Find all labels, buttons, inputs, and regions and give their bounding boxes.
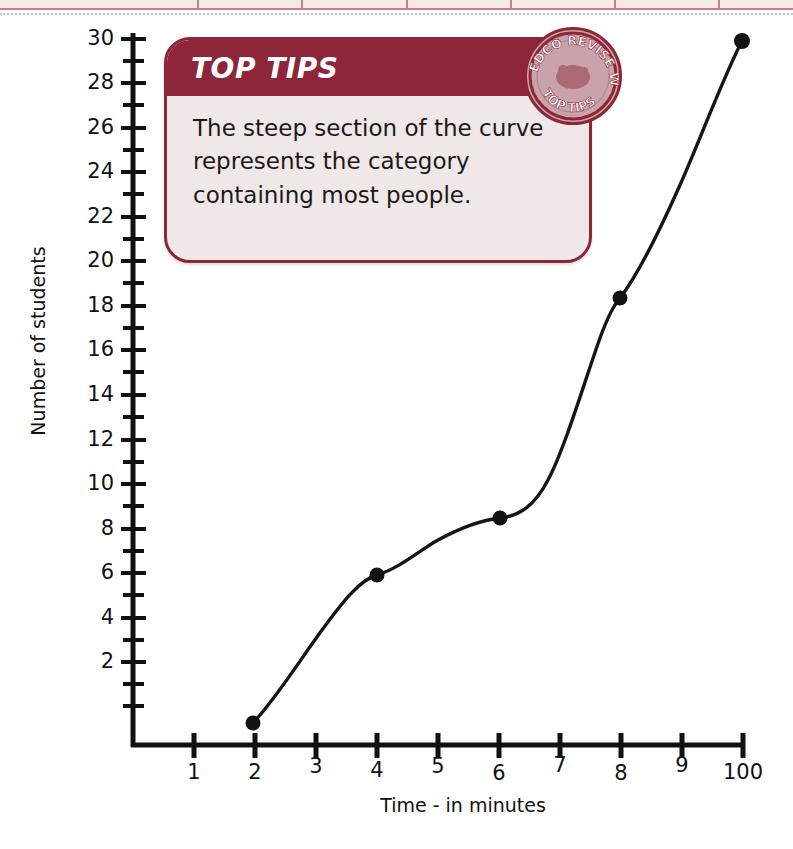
data-point	[246, 716, 261, 731]
y-tick-label: 8	[68, 518, 114, 539]
data-point	[613, 291, 628, 306]
top-tips-body-text: The steep section of the curve represent…	[167, 96, 589, 212]
x-axis-title: Time - in minutes	[333, 794, 593, 816]
y-tick-label: 30	[68, 28, 114, 49]
x-tick-label: 1	[164, 762, 224, 783]
x-tick-label: 100	[713, 762, 773, 783]
y-tick-label: 12	[68, 429, 114, 450]
top-tips-title: TOP TIPS	[167, 52, 338, 85]
x-tick-label: 6	[469, 763, 529, 784]
y-tick-label: 6	[68, 562, 114, 583]
y-tick-label: 4	[68, 607, 114, 628]
data-point	[493, 511, 508, 526]
y-tick-label: 2	[68, 651, 114, 672]
y-tick-label: 18	[68, 295, 114, 316]
x-tick-label: 8	[591, 763, 651, 784]
x-tick-label: 5	[408, 756, 468, 777]
edco-revise-wise-seal-icon: EDCO REVISE WISE TOP TIPS	[524, 27, 622, 125]
y-tick-label: 14	[68, 384, 114, 405]
y-tick-label: 16	[68, 339, 114, 360]
y-tick-label: 28	[68, 72, 114, 93]
x-tick-label: 7	[530, 755, 590, 776]
y-tick-label: 20	[68, 250, 114, 271]
x-tick-label: 2	[225, 762, 285, 783]
y-tick-label: 22	[68, 206, 114, 227]
x-tick-label: 4	[347, 760, 407, 781]
data-point	[734, 33, 750, 49]
x-tick-label: 9	[652, 755, 712, 776]
x-tick-label: 3	[286, 756, 346, 777]
y-tick-label: 24	[68, 161, 114, 182]
y-tick-label: 10	[68, 473, 114, 494]
y-axis-title: Number of students	[27, 231, 49, 451]
chart-page: 30 28 26 24 22 20 18 16 14 12 10 8 6 4 2…	[0, 0, 793, 849]
y-tick-label: 26	[68, 117, 114, 138]
data-point	[370, 568, 385, 583]
